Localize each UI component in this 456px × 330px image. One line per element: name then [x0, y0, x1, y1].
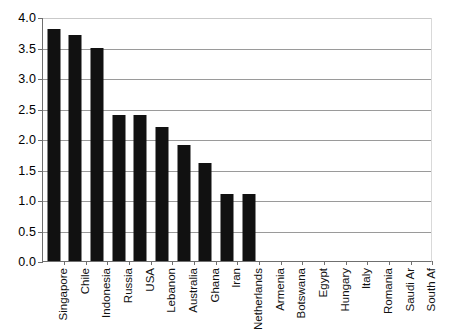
x-axis-label: Romania	[383, 268, 395, 314]
x-axis-label-wrap: Australia	[188, 268, 200, 313]
x-axis-label-wrap: Armenia	[275, 268, 287, 311]
cutoff-caption	[0, 318, 456, 326]
x-axis-label: Armenia	[275, 268, 287, 311]
bar-slot	[390, 18, 412, 261]
y-axis-label: 1.0	[18, 195, 36, 208]
x-axis-tick	[432, 261, 433, 265]
bar-slot	[281, 18, 303, 261]
y-axis-label: 1.5	[18, 164, 36, 177]
x-axis-tick	[302, 261, 303, 265]
bar-slot	[151, 18, 173, 261]
bar	[199, 163, 212, 261]
bar-slot	[325, 18, 347, 261]
bar-slot	[130, 18, 152, 261]
x-axis-label: Singapore	[58, 268, 70, 320]
x-axis-tick	[324, 261, 325, 265]
bar-slot	[173, 18, 195, 261]
x-axis-label: Hungary	[340, 268, 352, 311]
bar	[221, 194, 234, 261]
x-axis-tick	[64, 261, 65, 265]
bar	[156, 127, 169, 261]
bar-slot	[108, 18, 130, 261]
bar-slot	[238, 18, 260, 261]
bar-slot	[65, 18, 87, 261]
y-axis-label: 2.5	[18, 103, 36, 116]
y-axis-label: 0.0	[18, 256, 36, 269]
bar	[242, 194, 255, 261]
y-axis-label: 3.5	[18, 42, 36, 55]
y-axis-label: 2.0	[18, 134, 36, 147]
bar-slot	[43, 18, 65, 261]
x-axis-label: South Af	[426, 268, 438, 311]
x-axis-tick	[129, 261, 130, 265]
x-axis-label: Indonesia	[101, 268, 113, 318]
x-axis-label: USA	[145, 268, 157, 292]
bar	[134, 115, 147, 261]
x-axis-tick	[259, 261, 260, 265]
bar	[112, 115, 125, 261]
x-axis-label-wrap: South Af	[426, 268, 438, 311]
x-axis-label-wrap: USA	[145, 268, 157, 292]
x-axis-tick	[151, 261, 152, 265]
x-axis-tick	[172, 261, 173, 265]
y-axis-label: 3.0	[18, 73, 36, 86]
bar-slot	[368, 18, 390, 261]
bar-slot	[411, 18, 433, 261]
x-axis-label-wrap: Hungary	[340, 268, 352, 311]
x-axis-tick	[281, 261, 282, 265]
bars-layer	[43, 18, 431, 261]
bar-slot	[216, 18, 238, 261]
plot-area: 0.00.51.01.52.02.53.03.54.0	[42, 18, 432, 262]
x-axis-tick	[107, 261, 108, 265]
x-axis-tick	[86, 261, 87, 265]
x-axis-label-wrap: Saudi Ar	[405, 268, 417, 311]
bar	[47, 29, 60, 261]
x-axis-label: Australia	[188, 268, 200, 313]
y-axis-tick	[38, 262, 43, 263]
x-axis-label-wrap: Egypt	[318, 268, 330, 297]
x-axis-label: Ghana	[210, 268, 222, 303]
x-axis-label-wrap: Italy	[361, 268, 373, 289]
x-axis-label-wrap: Iran	[231, 268, 243, 288]
x-axis-label: Iran	[231, 268, 243, 288]
x-axis-tick	[216, 261, 217, 265]
x-axis-tick	[346, 261, 347, 265]
x-axis-label-wrap: Ghana	[210, 268, 222, 303]
y-axis-label: 4.0	[18, 12, 36, 25]
x-axis-label: Botswana	[296, 268, 308, 319]
bar-slot	[195, 18, 217, 261]
x-axis-tick	[237, 261, 238, 265]
x-axis-label-wrap: Singapore	[58, 268, 70, 320]
x-axis-label-wrap: Russia	[123, 268, 135, 303]
x-axis-tick	[367, 261, 368, 265]
bar	[177, 145, 190, 261]
x-axis-tick	[411, 261, 412, 265]
bar-slot	[303, 18, 325, 261]
bar-slot	[260, 18, 282, 261]
x-axis-label: Egypt	[318, 268, 330, 297]
y-axis-label: 0.5	[18, 225, 36, 238]
bar-slot	[86, 18, 108, 261]
x-axis-label-wrap: Romania	[383, 268, 395, 314]
x-axis-label: Italy	[361, 268, 373, 289]
x-axis-label-wrap: Indonesia	[101, 268, 113, 318]
bar-slot	[346, 18, 368, 261]
x-axis-label: Russia	[123, 268, 135, 303]
x-axis-tick	[389, 261, 390, 265]
x-axis-label-wrap: Lebanon	[166, 268, 178, 313]
x-axis-label: Saudi Ar	[405, 268, 417, 311]
bar	[91, 48, 104, 262]
x-axis-tick	[194, 261, 195, 265]
x-axis-label-wrap: Chile	[80, 268, 92, 294]
x-axis-label: Chile	[80, 268, 92, 294]
bar	[69, 35, 82, 261]
x-axis-label: Lebanon	[166, 268, 178, 313]
x-axis-label-wrap: Botswana	[296, 268, 308, 319]
